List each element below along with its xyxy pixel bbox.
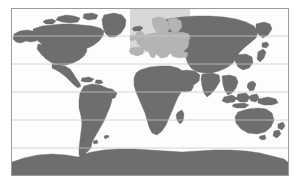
region-arctic-island-2 xyxy=(83,13,98,20)
world-map-figure: World Map xyxy=(0,0,300,195)
world-map-canvas xyxy=(0,0,300,195)
